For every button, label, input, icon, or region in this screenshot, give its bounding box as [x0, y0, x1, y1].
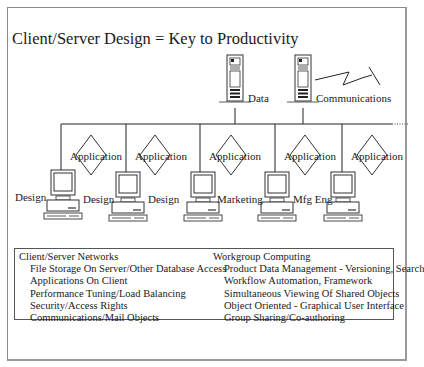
list-item: Workflow Automation, Framework — [209, 275, 424, 287]
client-computer-icon — [109, 172, 147, 221]
client-label: Design — [148, 193, 179, 205]
client-computer-icon — [258, 172, 296, 221]
client-server-networks-list: Client/Server Networks File Storage On S… — [15, 251, 226, 324]
server-label-communications: Communications — [316, 92, 391, 104]
list-item: File Storage On Server/Other Database Ac… — [15, 263, 226, 275]
client-label: Design — [15, 191, 46, 203]
application-label: Application — [284, 150, 336, 162]
list-item: Security/Access Rights — [15, 300, 226, 312]
list-item: Simultaneous Viewing Of Shared Objects — [209, 288, 424, 300]
communications-link-icon — [315, 72, 372, 85]
communications-server-icon — [287, 55, 319, 102]
data-server-icon — [219, 55, 251, 102]
list-item: Performance Tuning/Load Balancing — [15, 288, 226, 300]
list-item: Applications On Client — [15, 275, 226, 287]
features-box: Client/Server Networks File Storage On S… — [14, 248, 394, 320]
application-label: Application — [70, 150, 122, 162]
client-label: Mfg Eng — [293, 193, 332, 205]
workgroup-computing-list: Workgroup Computing Product Data Managem… — [209, 251, 424, 324]
application-label: Application — [135, 150, 187, 162]
client-label: Design — [83, 193, 114, 205]
list-item: Product Data Management - Versioning, Se… — [209, 263, 424, 275]
application-label: Application — [209, 150, 261, 162]
list-item: Group Sharing/Co-authoring — [209, 312, 424, 324]
list-item: Communications/Mail Objects — [15, 312, 226, 324]
list-heading: Client/Server Networks — [15, 251, 226, 263]
server-label-data: Data — [248, 92, 269, 104]
client-computer-icon — [44, 170, 82, 219]
client-label: Marketing — [217, 193, 263, 205]
application-label: Application — [351, 150, 403, 162]
list-item: Object Oriented - Graphical User Interfa… — [209, 300, 424, 312]
list-heading: Workgroup Computing — [209, 251, 424, 263]
